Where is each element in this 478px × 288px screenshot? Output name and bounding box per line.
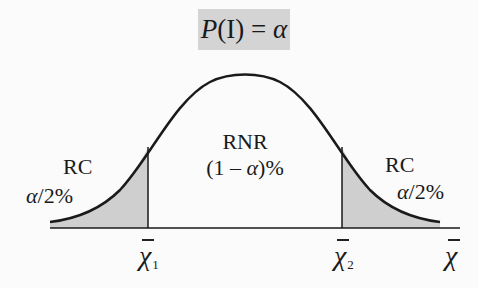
center-region-name: RNR [222,129,267,154]
center-region-close: )% [258,155,284,180]
center-region-open: (1 – [206,155,246,180]
axis-x1-subscript: 1 [152,257,159,272]
right-region-share: α/2% [397,180,444,204]
axis-x1-symbol: χ [139,240,151,271]
right-region-name: RC [385,152,414,177]
left-region-fraction: /2% [38,183,73,208]
title-equals: = [244,14,273,45]
center-region-alpha: α [247,155,259,180]
left-region-share: α/2% [26,184,73,208]
right-region-alpha: α [397,179,409,204]
title-arg: I [226,14,235,45]
title-prefix: P [201,14,218,45]
left-region-alpha: α [26,183,38,208]
left-region-label: RC [63,155,92,179]
axis-label-x: χ [445,242,457,270]
axis-x-symbol: χ [445,240,457,271]
title-paren-close: ) [235,14,244,45]
right-region-fraction: /2% [409,179,444,204]
axis-label-x1: χ1 [139,242,159,279]
mean-bar-x [448,239,460,241]
mean-bar-x2 [337,239,349,241]
axis-label-x2: χ2 [334,242,354,279]
title-value: α [273,14,287,45]
center-region-label: RNR [197,130,293,154]
axis-x2-subscript: 2 [347,257,354,272]
probability-title-box: P(I) = α [198,9,290,50]
left-region-name: RC [63,154,92,179]
right-region-label: RC [385,153,414,177]
mean-bar-x1 [142,239,154,241]
title-paren-open: ( [217,14,226,45]
normal-distribution-diagram: P(I) = α RC α/2% RNR (1 – α)% RC α/2% χ1… [0,0,478,288]
center-region-share: (1 – α)% [190,156,300,180]
axis-x2-symbol: χ [334,240,346,271]
